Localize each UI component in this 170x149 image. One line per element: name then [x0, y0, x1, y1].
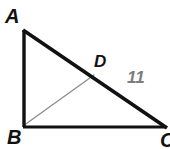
- vertex-label-c: C: [160, 130, 170, 149]
- geometry-figure: A B C D 11: [0, 0, 170, 149]
- segment-bd: [23, 75, 94, 126]
- segment-length-label: 11: [127, 69, 145, 86]
- vertex-label-a: A: [5, 6, 19, 26]
- point-label-d: D: [94, 53, 106, 70]
- vertex-label-b: B: [7, 127, 21, 147]
- segment-ac-hypotenuse: [23, 30, 167, 128]
